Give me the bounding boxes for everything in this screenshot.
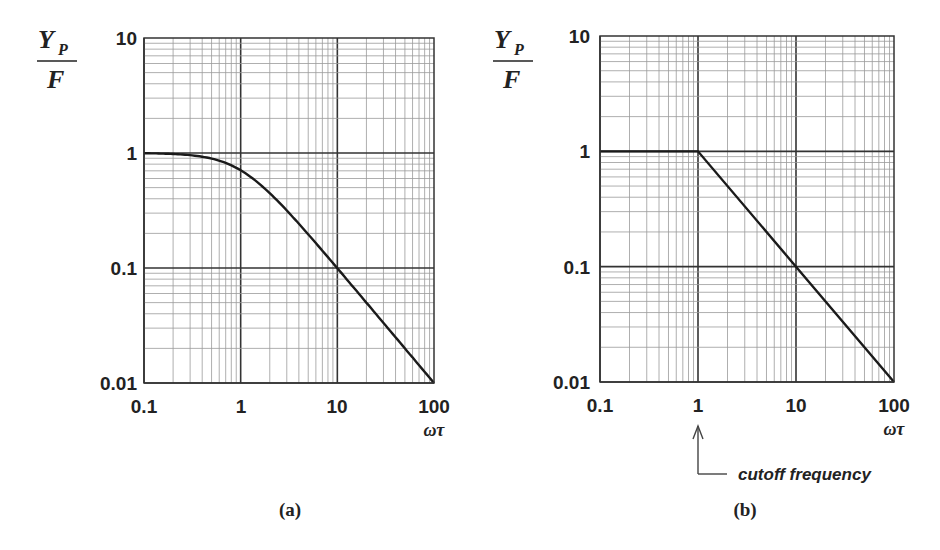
panel-a-label: (a) <box>279 499 301 521</box>
plot-b-ytick-10: 10 <box>569 26 590 47</box>
plot-a-ytick-1: 1 <box>126 143 137 164</box>
cutoff-arrow-icon <box>693 426 727 474</box>
plot-b-ytick-1: 1 <box>579 141 590 162</box>
plot-a-xtick-1: 1 <box>236 396 247 417</box>
plot-a-xtick-10: 10 <box>326 396 347 417</box>
plot-a-ylabel-numerator: Y <box>38 25 56 54</box>
plot-a-ytick-10: 10 <box>116 28 137 49</box>
plot-b-ylabel-denominator: F <box>502 65 520 94</box>
plot-b-ylabel-subscript: P <box>513 41 524 58</box>
plot-a-ytick-0.01: 0.01 <box>100 373 137 394</box>
plot-a-xtick-100: 100 <box>418 396 450 417</box>
plot-a-xlabel: ωτ <box>424 420 446 440</box>
plot-b-xlabel: ωτ <box>884 419 906 439</box>
plot-b-xtick-10: 10 <box>785 395 806 416</box>
plot-a-ytick-0.1: 0.1 <box>111 258 138 279</box>
plot-a-xtick-0.1: 0.1 <box>131 396 158 417</box>
plot-b-xtick-0.1: 0.1 <box>587 395 614 416</box>
plot-b-ytick-0.1: 0.1 <box>564 257 591 278</box>
plot-b-ytick-0.01: 0.01 <box>553 372 590 393</box>
plot-a-ylabel-subscript: P <box>57 41 68 58</box>
plot-b-ylabel-numerator: Y <box>494 25 512 54</box>
cutoff-frequency-label: cutoff frequency <box>738 465 872 484</box>
plot-b-xtick-1: 1 <box>693 395 704 416</box>
plot-b-xtick-100: 100 <box>878 395 910 416</box>
plot-a-ylabel-denominator: F <box>46 65 64 94</box>
figure: Y P F 10 1 0.1 0.01 0.1 1 10 100 ωτ (a) … <box>0 0 940 550</box>
panel-b-label: (b) <box>733 499 756 521</box>
